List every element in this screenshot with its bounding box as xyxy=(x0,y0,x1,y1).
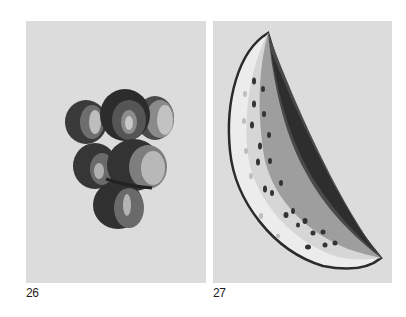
grape-top-left xyxy=(65,100,107,144)
plate-number-26: 26 xyxy=(26,286,39,300)
watermelon-slice-illustration xyxy=(213,21,392,283)
plate-number-27: 27 xyxy=(213,286,226,300)
grape-top-middle xyxy=(100,89,150,141)
plate-watermelon xyxy=(213,21,392,283)
plate-grapes xyxy=(26,21,206,283)
grape-cluster-illustration xyxy=(26,21,206,283)
